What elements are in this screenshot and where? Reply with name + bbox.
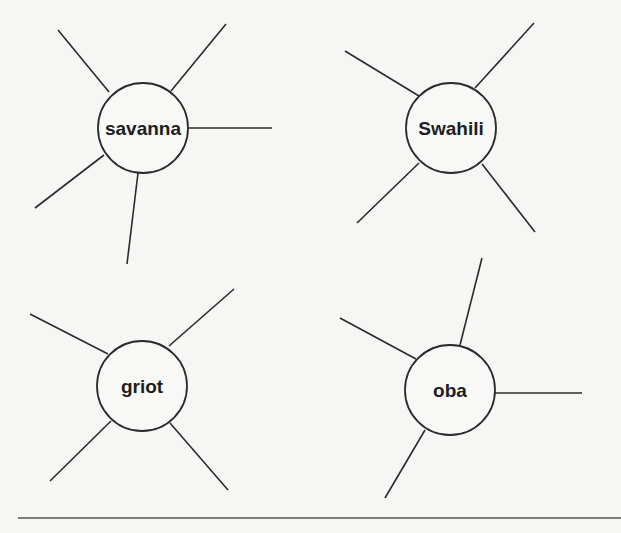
web-spoke-line xyxy=(171,24,226,91)
word-web-griot: griot xyxy=(30,289,234,490)
web-spoke-line xyxy=(50,421,111,481)
web-spoke-line xyxy=(35,155,104,208)
word-web-diagram: savannaSwahiligriotoba xyxy=(0,0,621,533)
web-spoke-line xyxy=(170,423,228,490)
web-center-word: savanna xyxy=(105,118,181,139)
web-center-word: griot xyxy=(121,376,164,397)
web-center-word: Swahili xyxy=(418,118,483,139)
word-web-oba: oba xyxy=(340,258,582,498)
word-web-swahili: Swahili xyxy=(345,23,535,232)
web-spoke-line xyxy=(169,289,234,346)
web-spoke-line xyxy=(340,318,416,359)
web-spoke-line xyxy=(475,23,534,88)
web-spoke-line xyxy=(127,173,138,264)
web-spoke-line xyxy=(482,164,535,232)
web-spoke-line xyxy=(345,51,419,96)
web-spoke-line xyxy=(30,314,108,354)
web-spoke-line xyxy=(357,163,419,223)
web-spoke-line xyxy=(58,30,109,92)
web-spoke-line xyxy=(460,258,482,345)
web-center-word: oba xyxy=(433,380,467,401)
word-web-savanna: savanna xyxy=(35,24,272,264)
web-spoke-line xyxy=(385,430,425,498)
